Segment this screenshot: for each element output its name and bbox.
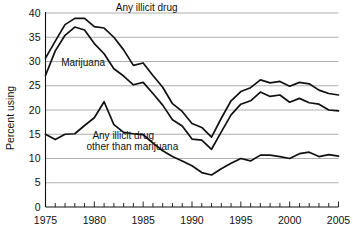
gridlines-group	[46, 13, 339, 183]
y-tick-label-20: 20	[29, 104, 41, 116]
y-tick-label-0: 0	[35, 201, 41, 213]
series-label-other-than-marijuana-line1: Any illicit drug	[92, 130, 154, 141]
axes-group	[46, 12, 339, 207]
y-tick-label-25: 25	[29, 79, 41, 91]
series-label-marijuana: Marijuana	[61, 57, 105, 68]
y-tick-label-35: 35	[29, 31, 41, 43]
series-label-other-than-marijuana-line2: other than marijuana	[87, 141, 179, 152]
x-tick-label-1990: 1990	[180, 214, 204, 226]
x-tick-label-1985: 1985	[131, 214, 155, 226]
chart-container: 0510152025303540 19751980198519901995200…	[0, 0, 353, 236]
x-tick-label-1980: 1980	[83, 214, 107, 226]
y-tick-labels-group: 0510152025303540	[29, 7, 41, 213]
x-tick-label-1975: 1975	[34, 214, 58, 226]
y-axis-title-group: Percent using	[4, 86, 16, 150]
series-annotations-group: Any illicit drugMarijuanaAny illicit dru…	[61, 2, 179, 152]
x-tick-label-1995: 1995	[229, 214, 253, 226]
x-tick-labels-group: 1975198019851990199520002005	[34, 214, 351, 226]
y-tick-label-5: 5	[35, 176, 41, 188]
y-tick-label-10: 10	[29, 152, 41, 164]
x-tick-label-2005: 2005	[327, 214, 351, 226]
y-tick-label-30: 30	[29, 55, 41, 67]
y-tick-label-15: 15	[29, 128, 41, 140]
y-axis-title: Percent using	[4, 86, 16, 150]
y-tick-label-40: 40	[29, 7, 41, 19]
series-label-any-illicit-drug: Any illicit drug	[116, 2, 178, 13]
series-line-1	[46, 27, 339, 149]
x-tick-label-2000: 2000	[278, 214, 302, 226]
line-chart: 0510152025303540 19751980198519901995200…	[0, 0, 353, 236]
